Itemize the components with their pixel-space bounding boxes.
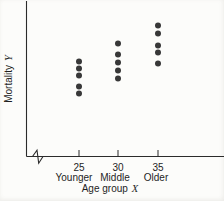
y-axis-label: MortalityY bbox=[3, 54, 14, 103]
data-point bbox=[155, 43, 161, 49]
data-point bbox=[115, 76, 121, 82]
data-point bbox=[115, 60, 121, 66]
x-axis-label: Age groupX bbox=[82, 183, 139, 194]
group-label: Middle bbox=[100, 172, 130, 183]
x-tick-label: 25 bbox=[73, 162, 85, 173]
x-tick-label: 30 bbox=[112, 162, 124, 173]
group-label: Younger bbox=[56, 172, 94, 183]
x-tick-label: 35 bbox=[152, 162, 164, 173]
y-axis-variable: Y bbox=[3, 54, 14, 61]
data-point bbox=[155, 50, 161, 56]
data-point bbox=[76, 84, 82, 90]
data-point bbox=[115, 68, 121, 74]
data-point bbox=[76, 91, 82, 97]
scatter-figure: MortalityY Age groupX 25Younger30Middle3… bbox=[0, 0, 224, 201]
data-point bbox=[115, 52, 121, 58]
x-axis-variable: X bbox=[131, 183, 139, 194]
group-label: Older bbox=[144, 172, 169, 183]
x-axis-label-text: Age group bbox=[82, 183, 129, 194]
data-point bbox=[76, 66, 82, 72]
plot-generated-content: 25Younger30Middle35Older bbox=[56, 23, 169, 184]
y-axis-label-text: Mortality bbox=[3, 65, 14, 103]
scatter-plot-canvas: MortalityY Age groupX 25Younger30Middle3… bbox=[0, 0, 224, 201]
data-point bbox=[155, 23, 161, 29]
data-point bbox=[115, 41, 121, 47]
data-point bbox=[155, 61, 161, 67]
data-point bbox=[155, 31, 161, 37]
data-point bbox=[76, 73, 82, 79]
data-point bbox=[76, 59, 82, 65]
